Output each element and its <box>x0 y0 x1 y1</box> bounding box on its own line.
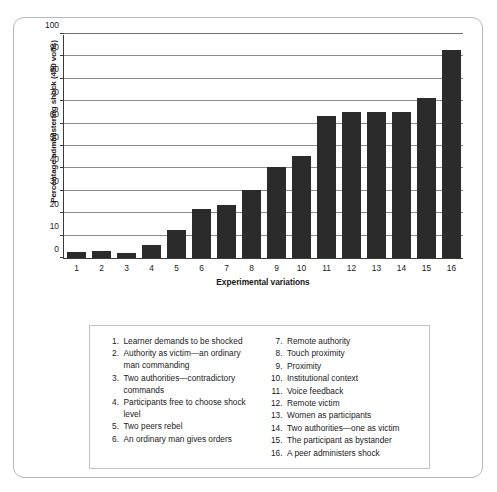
y-tick-label: 90 <box>50 42 59 52</box>
legend-item: 7.Remote authority <box>270 336 428 348</box>
legend-item: 10.Institutional context <box>270 373 428 385</box>
x-tick-label: 14 <box>397 263 406 273</box>
x-tick-label: 9 <box>274 263 279 273</box>
legend-item-number: 13. <box>270 410 283 422</box>
bar-chart: Percentage administering shock (450 volt… <box>14 18 484 301</box>
legend-item: 9.Proximity <box>270 361 428 373</box>
x-tick-label: 15 <box>422 263 431 273</box>
legend-columns: 1.Learner demands to be shocked2.Authori… <box>90 336 429 468</box>
x-tick-label: 3 <box>124 263 129 273</box>
legend-item-label: Voice feedback <box>287 386 427 398</box>
legend-item-number: 10. <box>270 373 283 385</box>
legend-item-number: 11. <box>270 386 283 398</box>
bar <box>92 251 111 258</box>
bar <box>217 205 236 258</box>
legend-item-label: Participants free to choose shock level <box>124 397 258 421</box>
legend-item: 11.Voice feedback <box>270 386 428 398</box>
legend-item: 15.The participant as bystander <box>270 435 428 447</box>
plot-area: 0102030405060708090100 12345678910111213… <box>63 35 463 259</box>
bar <box>392 112 411 258</box>
x-tick-label: 1 <box>74 263 79 273</box>
y-tick-label: 50 <box>50 132 59 142</box>
bar <box>367 112 386 258</box>
bar <box>192 209 211 258</box>
y-tick-label: 100 <box>45 20 59 30</box>
bar <box>67 252 86 258</box>
x-axis-title: Experimental variations <box>63 277 463 287</box>
bar <box>417 98 436 258</box>
legend-item: 3.Two authorities—contradictory commands <box>106 373 258 397</box>
y-tick-label: 20 <box>50 199 59 209</box>
legend-item: 6.An ordinary man gives orders <box>106 434 258 446</box>
y-tick-label: 0 <box>54 244 59 254</box>
x-tick-label: 2 <box>99 263 104 273</box>
legend-item-number: 5. <box>106 421 119 433</box>
legend-item-label: Authority as victim—an ordinary man comm… <box>124 348 258 372</box>
bar <box>242 190 261 258</box>
bar <box>267 167 286 258</box>
legend-item-number: 14. <box>270 423 283 435</box>
legend-item: 13.Women as participants <box>270 410 428 422</box>
bar <box>442 50 461 258</box>
legend-item-label: Remote authority <box>287 336 427 348</box>
x-tick-label: 8 <box>249 263 254 273</box>
bar <box>317 116 336 258</box>
x-tick-label: 11 <box>322 263 331 273</box>
legend-box: 1.Learner demands to be shocked2.Authori… <box>89 325 430 469</box>
legend-item-number: 2. <box>106 348 119 372</box>
x-tick-label: 7 <box>224 263 229 273</box>
legend-column-left: 1.Learner demands to be shocked2.Authori… <box>90 336 260 468</box>
legend-item: 5.Two peers rebel <box>106 421 258 433</box>
legend-column-right: 7.Remote authority8.Touch proximity9.Pro… <box>260 336 430 468</box>
legend-item-label: Remote victim <box>287 398 427 410</box>
bar <box>142 245 161 258</box>
legend-item-label: Two authorities—contradictory commands <box>124 373 258 397</box>
legend-item-label: An ordinary man gives orders <box>124 434 258 446</box>
bar <box>117 253 136 258</box>
legend-item-number: 3. <box>106 373 119 397</box>
bar <box>292 156 311 258</box>
y-tick-mark <box>60 33 64 34</box>
y-tick-label: 30 <box>50 176 59 186</box>
legend-item: 2.Authority as victim—an ordinary man co… <box>106 348 258 372</box>
legend-item-label: Proximity <box>287 361 427 373</box>
y-tick-label: 60 <box>50 109 59 119</box>
y-tick-label: 10 <box>50 221 59 231</box>
legend-item-number: 12. <box>270 398 283 410</box>
legend-item-number: 6. <box>106 434 119 446</box>
legend-item-number: 8. <box>270 348 283 360</box>
bar <box>342 112 361 258</box>
legend-item-number: 16. <box>270 448 283 460</box>
legend-item-label: Learner demands to be shocked <box>124 336 258 348</box>
x-tick-label: 5 <box>174 263 179 273</box>
legend-item: 1.Learner demands to be shocked <box>106 336 258 348</box>
legend-item: 14.Two authorities—one as victim <box>270 423 428 435</box>
figure-frame: Percentage administering shock (450 volt… <box>13 17 483 478</box>
x-tick-label: 12 <box>347 263 356 273</box>
legend-item-number: 1. <box>106 336 119 348</box>
x-tick-label: 13 <box>372 263 381 273</box>
legend-item-label: A peer administers shock <box>287 448 427 460</box>
y-tick-label: 70 <box>50 87 59 97</box>
legend-item: 16.A peer administers shock <box>270 448 428 460</box>
x-tick-label: 4 <box>149 263 154 273</box>
y-tick-label: 80 <box>50 64 59 74</box>
x-tick-label: 6 <box>199 263 204 273</box>
legend-item-label: Two peers rebel <box>124 421 258 433</box>
x-tick-label: 10 <box>297 263 306 273</box>
legend-item: 4.Participants free to choose shock leve… <box>106 397 258 421</box>
legend-item-label: Touch proximity <box>287 348 427 360</box>
legend-item-label: Institutional context <box>287 373 427 385</box>
legend-item: 8.Touch proximity <box>270 348 428 360</box>
legend-item-label: Women as participants <box>287 410 427 422</box>
legend-item: 12.Remote victim <box>270 398 428 410</box>
bar-series <box>64 35 463 258</box>
legend-item-number: 7. <box>270 336 283 348</box>
legend-item-number: 9. <box>270 361 283 373</box>
legend-item-number: 4. <box>106 397 119 421</box>
legend-item-label: The participant as bystander <box>287 435 427 447</box>
legend-item-label: Two authorities—one as victim <box>287 423 427 435</box>
x-tick-label: 16 <box>447 263 456 273</box>
bar <box>167 230 186 258</box>
gridline <box>64 33 463 34</box>
